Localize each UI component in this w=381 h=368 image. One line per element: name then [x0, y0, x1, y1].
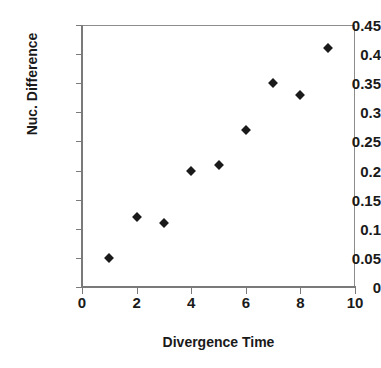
y-axis-tick: [76, 171, 82, 172]
x-axis-tick-label: 4: [171, 295, 211, 310]
y-axis-tick: [76, 229, 82, 230]
x-axis-tick-label: 6: [226, 295, 266, 310]
x-axis-line: [81, 286, 356, 288]
x-axis-tick-label: 10: [335, 295, 375, 310]
y-axis-tick: [76, 112, 82, 113]
y-axis-tick-label: 0: [323, 280, 381, 295]
y-axis-tick-label: 0.45: [323, 18, 381, 33]
x-axis-title: Divergence Time: [82, 334, 355, 350]
y-axis-tick: [76, 25, 82, 26]
y-axis-tick-label: 0.05: [323, 250, 381, 265]
y-axis-tick-label: 0.25: [323, 134, 381, 149]
y-axis-title: Nuc. Difference: [24, 0, 40, 194]
y-axis-tick-label: 0.3: [323, 105, 381, 120]
y-axis-tick: [76, 83, 82, 84]
y-axis-tick: [76, 141, 82, 142]
y-axis-tick-label: 0.1: [323, 221, 381, 236]
plot-area: [82, 25, 355, 287]
y-axis-tick-label: 0.2: [323, 163, 381, 178]
y-axis-tick-label: 0.15: [323, 192, 381, 207]
y-axis-tick: [76, 54, 82, 55]
y-axis-tick-label: 0.35: [323, 76, 381, 91]
y-axis-line: [81, 25, 83, 288]
y-axis-tick: [76, 258, 82, 259]
x-axis-tick-label: 0: [62, 295, 102, 310]
scatter-plot-figure: 00.050.10.150.20.250.30.350.40.45 024681…: [0, 0, 381, 368]
x-axis-tick-label: 8: [280, 295, 320, 310]
y-axis-tick: [76, 200, 82, 201]
x-axis-tick-label: 2: [117, 295, 157, 310]
